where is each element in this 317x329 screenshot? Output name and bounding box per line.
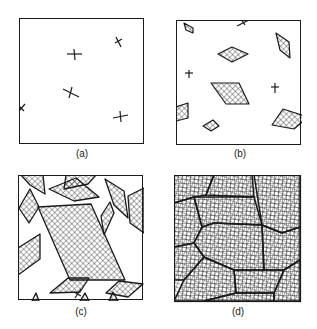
panel-a bbox=[19, 18, 145, 145]
panel-c-caption: (c) bbox=[61, 306, 101, 317]
panel-d-drawing bbox=[174, 175, 302, 303]
panel-a-caption: (a) bbox=[62, 148, 102, 159]
panel-c-drawing bbox=[18, 175, 144, 301]
panel-b-caption: (b) bbox=[220, 148, 260, 159]
panel-c bbox=[18, 175, 144, 301]
panel-d-caption: (d) bbox=[218, 306, 258, 317]
crystal bbox=[184, 23, 193, 33]
panel-a-drawing bbox=[19, 18, 145, 145]
panel-d bbox=[174, 175, 302, 303]
panel-b-drawing bbox=[176, 20, 302, 146]
panel-b bbox=[176, 20, 302, 146]
nucleus-cross-icon bbox=[19, 37, 128, 122]
